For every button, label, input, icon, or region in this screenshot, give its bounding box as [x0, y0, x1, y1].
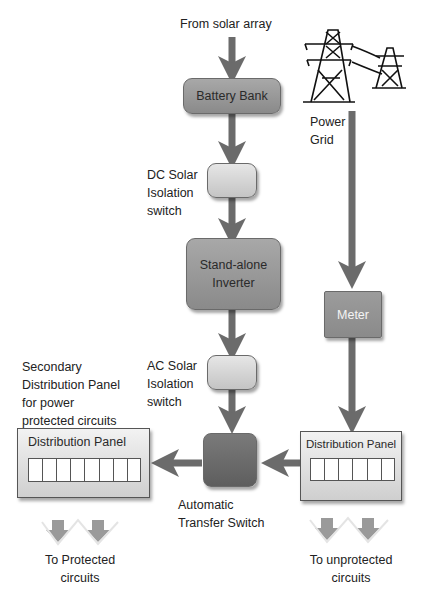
right-panel-breakers: [310, 458, 395, 481]
ac-switch-label: AC Solar Isolation switch: [147, 357, 197, 411]
unprotected-output-arrows: [315, 518, 380, 540]
protected-output-arrows: [46, 520, 110, 542]
secondary-panel-label: Secondary Distribution Panel for power p…: [22, 358, 120, 430]
right-panel-title: Distribution Panel: [306, 438, 396, 450]
dc-switch-label: DC Solar Isolation switch: [147, 166, 198, 220]
ats-label: Automatic Transfer Switch: [178, 496, 264, 532]
inverter-node: Stand-alone Inverter: [186, 238, 281, 310]
right-distribution-panel: Distribution Panel: [300, 431, 402, 501]
meter-node: Meter: [324, 291, 382, 338]
battery-bank-node: Battery Bank: [183, 78, 281, 114]
power-tower-icon: [303, 30, 406, 102]
unprotected-circuits-label: To unprotected circuits: [306, 551, 396, 587]
battery-bank-label: Battery Bank: [196, 87, 268, 105]
automatic-transfer-switch-node: [203, 433, 257, 487]
dc-solar-isolation-switch-node: [207, 163, 257, 198]
inverter-label-line1: Stand-alone: [200, 256, 267, 274]
inverter-label-line2: Inverter: [212, 274, 254, 292]
meter-label: Meter: [337, 306, 369, 324]
left-panel-breakers: [28, 458, 141, 482]
power-grid-label: Power Grid: [310, 113, 345, 149]
left-distribution-panel: Distribution Panel: [17, 428, 150, 498]
protected-circuits-label: To Protected circuits: [40, 551, 120, 587]
ac-solar-isolation-switch-node: [207, 355, 257, 390]
source-label: From solar array: [180, 15, 272, 33]
left-panel-title: Distribution Panel: [28, 435, 126, 449]
